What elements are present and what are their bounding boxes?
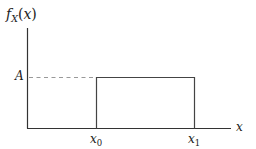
pdf-rectangle (97, 78, 195, 129)
y-label-arg: x (23, 6, 31, 22)
uniform-pdf-diagram: fX(x) A x0 x1 x (0, 0, 256, 149)
tick-x1-sub: 1 (195, 138, 200, 148)
level-label-a: A (14, 69, 24, 83)
y-label-close-paren: ) (31, 6, 36, 22)
tick-x0-sub: 0 (97, 138, 102, 148)
y-axis-label: fX(x) (5, 6, 37, 24)
tick-label-x1: x1 (188, 132, 200, 148)
tick-label-x0: x0 (90, 132, 102, 148)
x-axis-label: x (236, 120, 243, 134)
